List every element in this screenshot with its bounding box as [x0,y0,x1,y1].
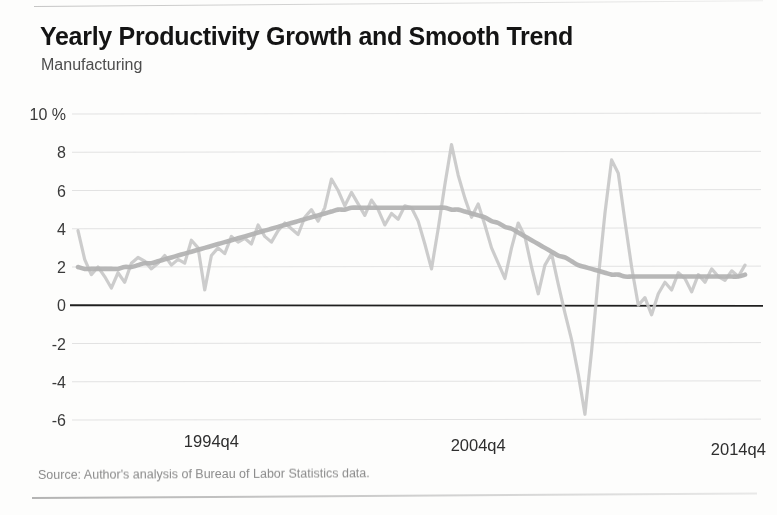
line-chart: 10 %86420-2-4-6 1994q42004q42014q4 [0,0,777,515]
y-tick-label: 0 [57,297,66,314]
gridline [72,419,761,420]
gridline [72,228,761,229]
y-axis-tick-labels: 10 %86420-2-4-6 [30,106,67,429]
source-note: Source: Author's analysis of Bureau of L… [38,466,370,482]
y-tick-label: -4 [52,374,66,391]
gridline [72,151,761,152]
gridline [72,343,761,344]
x-tick-label: 1994q4 [184,432,239,450]
y-tick-label: 6 [57,183,66,200]
figure-page: Yearly Productivity Growth and Smooth Tr… [0,0,777,515]
x-tick-label: 2014q4 [711,440,766,458]
gridline [72,113,761,114]
zero-line [70,305,763,306]
growth-line-path [78,145,745,415]
y-tick-label: -6 [52,412,66,429]
y-tick-label: 8 [57,144,66,161]
y-tick-label: 4 [57,221,66,238]
gridline [72,266,761,267]
y-tick-label: -2 [52,336,66,353]
gridline [72,381,761,382]
y-tick-label: 2 [57,259,66,276]
gridlines [72,113,761,420]
gridline [72,190,761,191]
x-tick-label: 2004q4 [451,436,506,454]
data-series-group [78,145,745,415]
y-tick-label: 10 % [30,106,66,123]
x-axis-tick-labels: 1994q42004q42014q4 [184,432,766,458]
zero-reference-line [70,305,763,306]
